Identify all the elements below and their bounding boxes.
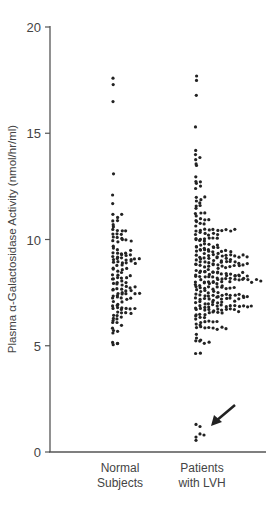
category-label: Normal [101,461,140,475]
arrow-annotation-icon [211,405,235,426]
category-labels: NormalSubjectsPatientswith LVH [97,461,226,490]
lvh-patients-dots [194,74,263,442]
normal-subjects-dots [111,77,141,347]
y-tick-label: 15 [27,126,41,141]
y-tick-label: 5 [34,339,41,354]
category-label: Patients [180,461,223,475]
y-ticks: 05101520 [27,20,50,460]
y-tick-label: 0 [34,445,41,460]
y-tick-label: 10 [27,233,41,248]
y-axis-label: Plasma α-Galactosidase Activity (nmol/hr… [6,125,18,354]
dot-plot-chart: 05101520 Plasma α-Galactosidase Activity… [0,0,274,509]
y-tick-label: 20 [27,20,41,35]
category-label: Subjects [97,476,143,490]
category-label: with LVH [177,476,225,490]
